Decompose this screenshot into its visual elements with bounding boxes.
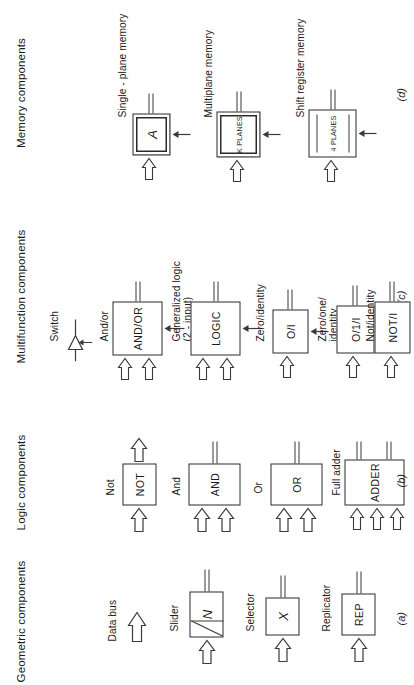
slider-box-label: N bbox=[199, 609, 214, 618]
item-zero-identity: Zero/identity O/I bbox=[254, 185, 316, 407]
or-box[interactable]: OR bbox=[270, 463, 322, 505]
multiplane-memory-box[interactable]: K PLANES bbox=[216, 111, 260, 157]
zero-identity-box[interactable]: O/I bbox=[272, 309, 308, 353]
caption-not: Not bbox=[104, 479, 115, 495]
zero-identity-box-label: O/I bbox=[284, 323, 296, 338]
caption-full-adder: Full adder bbox=[330, 449, 341, 495]
not-box[interactable]: NOT bbox=[122, 463, 156, 505]
adder-output-bus-1 bbox=[356, 441, 361, 459]
column-logic: Logic components Not NOT bbox=[0, 407, 414, 557]
column-title-logic: Logic components bbox=[14, 407, 26, 557]
not-identity-box[interactable]: NOT/I bbox=[374, 301, 410, 353]
shift-register-memory-box-label: 4 PLANES bbox=[328, 115, 337, 151]
item-slider: Slider N bbox=[168, 557, 234, 685]
item-shift-register-memory: Shift register memory 4 PLANES bbox=[290, 0, 378, 185]
column-multifunction: Multifunction components Switch And/or bbox=[0, 185, 414, 407]
column-title-geometric: Geometric components bbox=[14, 557, 26, 685]
adder-box-label: ADDER bbox=[368, 463, 380, 502]
column-memory: Memory components Single - plane memory … bbox=[0, 0, 414, 185]
and-or-input-arrow-1-icon bbox=[118, 357, 131, 379]
not-input-arrow-icon bbox=[131, 507, 146, 531]
or-box-label: OR bbox=[290, 476, 302, 493]
caption-and-or: And/or bbox=[98, 310, 109, 341]
logic-input-arrow-1-icon bbox=[196, 357, 209, 379]
figure-stage: Geometric components Data bus Slider bbox=[0, 0, 414, 685]
caption-or: Or bbox=[252, 481, 263, 493]
caption-zero-one-identity: Zero/one/ identity bbox=[316, 296, 339, 341]
selector-input-arrow-icon bbox=[275, 637, 290, 661]
item-switch: Switch bbox=[48, 185, 98, 407]
or-input-arrow-1-icon bbox=[276, 507, 291, 531]
not-output-arrow-icon bbox=[131, 437, 146, 461]
replicator-box[interactable]: REP bbox=[341, 593, 375, 635]
logic-box-label: LOGIC bbox=[209, 311, 221, 346]
replicator-input-arrow-icon bbox=[351, 637, 366, 661]
caption-multiplane-memory: Multiplane memory bbox=[202, 29, 213, 117]
selector-box-label: X bbox=[275, 612, 290, 621]
item-not-identity-graphic: NOT/I bbox=[372, 185, 412, 407]
selector-output-bus bbox=[280, 575, 285, 597]
single-plane-control-arrow-icon bbox=[170, 127, 190, 141]
not-identity-input-arrow-icon bbox=[384, 355, 397, 377]
item-not: Not NOT bbox=[104, 407, 166, 557]
slider-hatch-icon bbox=[190, 621, 223, 637]
and-or-box[interactable]: AND/OR bbox=[112, 301, 162, 355]
caption-generalized-logic-line1: Generalized logic bbox=[170, 261, 181, 341]
and-input-arrow-2-icon bbox=[218, 507, 233, 531]
item-data-bus: Data bus bbox=[104, 557, 158, 685]
shift-register-input-arrow-icon bbox=[324, 159, 337, 181]
item-or: Or OR bbox=[252, 407, 330, 557]
data-bus-arrow-icon bbox=[128, 611, 145, 641]
fignum-b: (b) bbox=[394, 474, 406, 487]
not-box-label: NOT bbox=[133, 472, 145, 495]
caption-slider: Slider bbox=[168, 604, 179, 631]
fignum-d: (d) bbox=[394, 88, 406, 101]
multiplane-memory-box-label: K PLANES bbox=[234, 116, 243, 153]
item-single-plane-memory: Single - plane memory A bbox=[112, 0, 190, 185]
caption-and: And bbox=[170, 477, 181, 495]
caption-selector: Selector bbox=[244, 593, 255, 631]
and-output-bus bbox=[212, 441, 217, 463]
and-input-arrow-1-icon bbox=[194, 507, 209, 531]
logic-input-arrow-2-icon bbox=[220, 357, 233, 379]
fignum-a: (a) bbox=[394, 612, 406, 625]
item-replicator: Replicator REP bbox=[320, 557, 386, 685]
and-or-input-arrow-2-icon bbox=[142, 357, 155, 379]
caption-shift-register-memory: Shift register memory bbox=[294, 18, 305, 117]
zero-identity-output-bus bbox=[287, 289, 292, 309]
zero-one-identity-output-bus bbox=[352, 285, 357, 305]
single-plane-memory-box-label: A bbox=[144, 130, 159, 139]
not-identity-output-bus bbox=[389, 281, 394, 301]
slider-output-bus bbox=[204, 569, 209, 591]
adder-output-bus-2 bbox=[386, 441, 391, 459]
or-output-bus bbox=[294, 441, 299, 463]
single-plane-input-arrow-icon bbox=[142, 157, 155, 179]
multiplane-control-arrow-icon bbox=[260, 127, 280, 141]
replicator-box-label: REP bbox=[352, 603, 364, 626]
single-plane-memory-box[interactable]: A bbox=[132, 113, 170, 155]
column-geometric: Geometric components Data bus Slider bbox=[0, 557, 414, 685]
caption-single-plane-memory: Single - plane memory bbox=[116, 13, 127, 117]
caption-switch: Switch bbox=[48, 310, 59, 341]
caption-generalized-logic: Generalized logic (2 - input) bbox=[170, 261, 193, 341]
adder-input-arrow-1-icon bbox=[350, 507, 363, 529]
and-box[interactable]: AND bbox=[188, 463, 240, 505]
column-title-memory: Memory components bbox=[14, 0, 26, 185]
item-selector: Selector X bbox=[244, 557, 310, 685]
shift-register-output-bus bbox=[330, 89, 335, 109]
zero-one-identity-box-label: O/1/I bbox=[349, 317, 361, 342]
item-and: And AND bbox=[170, 407, 248, 557]
multiplane-output-bus bbox=[236, 91, 241, 111]
logic-box[interactable]: LOGIC bbox=[190, 301, 240, 355]
adder-input-arrow-2-icon bbox=[370, 507, 383, 529]
and-box-label: AND bbox=[208, 472, 220, 495]
item-generalized-logic: Generalized logic (2 - input) LOGIC bbox=[176, 185, 250, 407]
caption-data-bus: Data bus bbox=[106, 599, 117, 641]
selector-box[interactable]: X bbox=[265, 597, 299, 635]
item-multiplane-memory: Multiplane memory K PLANES bbox=[198, 0, 282, 185]
figure-canvas: Geometric components Data bus Slider bbox=[0, 0, 414, 685]
slider-input-arrow-icon bbox=[199, 639, 214, 663]
column-title-multifunction: Multifunction components bbox=[14, 185, 26, 407]
switch-symbol-icon[interactable] bbox=[66, 317, 96, 361]
caption-zero-identity: Zero/identity bbox=[254, 284, 265, 341]
